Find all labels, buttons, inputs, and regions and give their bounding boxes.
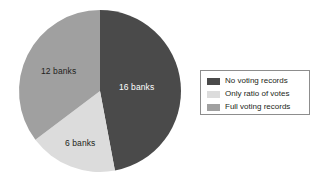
legend-item-only-ratio-of-votes[interactable]: Only ratio of votes (207, 88, 309, 100)
legend-swatch-icon-only-ratio-of-votes (207, 91, 220, 98)
legend-label-full-voting-records: Full voting records (225, 103, 290, 111)
slice-label-full-voting-records: 12 banks (41, 66, 76, 76)
slice-label-only-ratio-of-votes: 6 banks (65, 138, 95, 148)
pie-chart: 16 banks 6 banks 12 banks No voting reco… (0, 0, 319, 187)
legend-item-full-voting-records[interactable]: Full voting records (207, 101, 309, 113)
legend-swatch-icon-no-voting-records (207, 78, 220, 85)
legend-label-only-ratio-of-votes: Only ratio of votes (225, 90, 289, 98)
legend-item-no-voting-records[interactable]: No voting records (207, 75, 309, 87)
chart-legend: No voting records Only ratio of votes Fu… (200, 70, 310, 115)
legend-swatch-icon-full-voting-records (207, 104, 220, 111)
slice-label-no-voting-records: 16 banks (119, 82, 154, 92)
legend-label-no-voting-records: No voting records (225, 77, 288, 85)
